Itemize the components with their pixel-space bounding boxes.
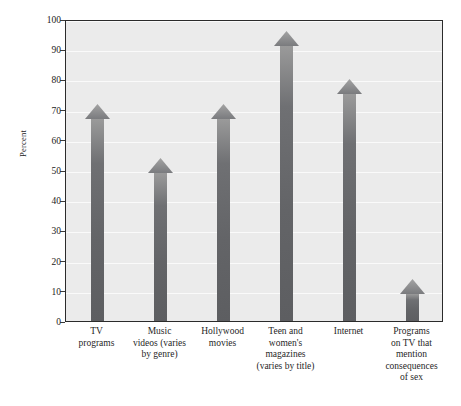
bar bbox=[211, 104, 236, 321]
bar bbox=[400, 279, 425, 321]
x-axis-label-line: mention bbox=[370, 349, 453, 361]
y-axis-tick: 30 bbox=[52, 225, 66, 237]
bar bbox=[148, 158, 173, 321]
bar bbox=[337, 79, 362, 321]
x-axis-label-line: Programs bbox=[370, 326, 453, 338]
x-axis-label-line: women's bbox=[244, 338, 327, 350]
bar-arrow-head bbox=[274, 31, 299, 46]
bar bbox=[85, 104, 110, 321]
bar-shaft bbox=[154, 173, 167, 321]
bar-chart-figure: Percent 0102030405060708090100 TVprogram… bbox=[0, 0, 461, 406]
bar-arrow-head bbox=[211, 104, 236, 119]
x-axis-label: Programson TV thatmentionconsequencesof … bbox=[370, 326, 453, 384]
y-axis-ticks: 0102030405060708090100 bbox=[36, 20, 65, 322]
bars-layer bbox=[66, 21, 442, 321]
bar-arrow-head bbox=[400, 279, 425, 294]
y-axis-tick: 100 bbox=[47, 14, 65, 26]
x-axis-label-line: (varies by title) bbox=[244, 361, 327, 373]
x-axis-label-line: consequences bbox=[370, 361, 453, 373]
y-axis-tick: 70 bbox=[52, 105, 66, 117]
y-axis-tick: 10 bbox=[52, 286, 66, 298]
bar-shaft bbox=[343, 94, 356, 321]
x-axis-label-line: magazines bbox=[244, 349, 327, 361]
bar-arrow-head bbox=[337, 79, 362, 94]
x-axis-label-line: by genre) bbox=[118, 349, 201, 361]
y-axis-tick: 80 bbox=[52, 74, 66, 86]
y-axis-tick: 20 bbox=[52, 256, 66, 268]
x-axis-labels: TVprogramsMusicvideos (variesby genre)Ho… bbox=[65, 326, 443, 406]
x-axis-label-line: of sex bbox=[370, 372, 453, 384]
bar bbox=[274, 31, 299, 321]
y-axis-tick: 40 bbox=[52, 195, 66, 207]
y-axis-title: Percent bbox=[18, 130, 34, 157]
bar-shaft bbox=[217, 119, 230, 321]
x-axis-label-line: on TV that bbox=[370, 338, 453, 350]
y-axis-tick: 90 bbox=[52, 44, 66, 56]
plot-area bbox=[65, 20, 443, 322]
y-axis-tick: 50 bbox=[52, 165, 66, 177]
bar-shaft bbox=[406, 294, 419, 321]
y-axis-tick: 60 bbox=[52, 135, 66, 147]
bar-shaft bbox=[91, 119, 104, 321]
bar-arrow-head bbox=[148, 158, 173, 173]
bar-shaft bbox=[280, 46, 293, 321]
bar-arrow-head bbox=[85, 104, 110, 119]
